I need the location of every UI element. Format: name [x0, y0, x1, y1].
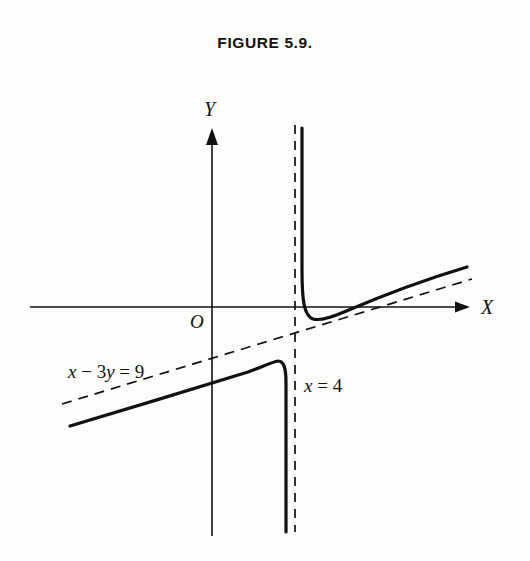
vertical-asymptote-label: x = 4: [303, 375, 343, 396]
x-axis-label: X: [480, 296, 494, 318]
origin-label: O: [190, 311, 204, 332]
y-axis: [206, 128, 218, 536]
curve-upper-right-branch: [302, 128, 467, 320]
oblique-asymptote-line: [62, 279, 472, 404]
figure-plot: X Y O x − 3y = 9 x = 4: [0, 0, 530, 561]
oblique-asymptote-label: x − 3y = 9: [67, 361, 144, 382]
figure-container: FIGURE 5.9. X Y O x − 3y = 9 x = 4: [0, 0, 530, 561]
curve-lower-left-branch: [70, 361, 286, 532]
y-axis-label: Y: [204, 98, 217, 120]
x-axis-arrowhead: [455, 302, 470, 313]
y-axis-arrowhead: [206, 128, 218, 145]
x-axis: [30, 302, 470, 313]
